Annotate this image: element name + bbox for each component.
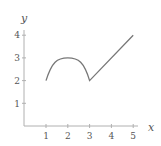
y-axis-label: y bbox=[20, 12, 28, 25]
y-tick-labels: 1 2 3 4 bbox=[14, 30, 20, 108]
y-tick-label: 3 bbox=[14, 53, 20, 63]
y-tick-label: 4 bbox=[14, 30, 20, 40]
x-tick-label: 2 bbox=[65, 131, 71, 141]
x-tick-label: 5 bbox=[130, 131, 136, 141]
line-chart: 1 2 3 4 5 1 2 3 4 y x bbox=[0, 0, 161, 146]
x-tick-label: 1 bbox=[43, 131, 49, 141]
x-tick-labels: 1 2 3 4 5 bbox=[43, 131, 136, 141]
x-tick-label: 4 bbox=[109, 131, 115, 141]
y-tick-label: 2 bbox=[14, 76, 20, 86]
y-tick-label: 1 bbox=[14, 99, 20, 109]
x-axis-label: x bbox=[148, 121, 155, 134]
data-series-curve bbox=[46, 35, 133, 80]
x-tick-label: 3 bbox=[87, 131, 93, 141]
